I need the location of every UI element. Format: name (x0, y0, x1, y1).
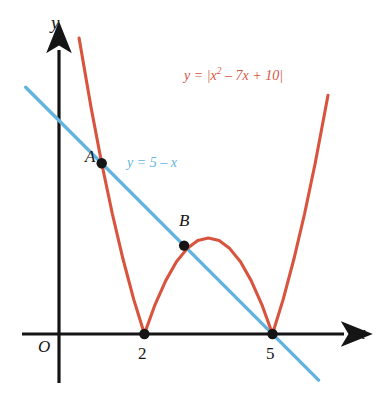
curve-equation-suffix: – 7x + 10| (222, 68, 284, 83)
point-b-marker (179, 240, 189, 250)
root-5-marker (267, 329, 277, 339)
point-a-marker (97, 158, 107, 168)
point-b-label: B (179, 212, 189, 229)
y-axis-label: y (51, 13, 59, 32)
x-tick-label-2: 2 (138, 345, 147, 362)
curve-equation-label: y = |x2 – 7x + 10| (184, 69, 283, 83)
origin-label: O (38, 338, 50, 355)
x-tick-label-5: 5 (266, 345, 275, 362)
line-equation-label: y = 5 – x (127, 156, 177, 170)
graph-canvas (0, 0, 384, 399)
graph-figure: y x O 2 5 A B y = |x2 – 7x + 10| y = 5 –… (0, 0, 384, 399)
curve-equation-prefix: y = |x (184, 68, 217, 83)
x-axis-label: x (357, 323, 365, 342)
root-2-marker (139, 329, 149, 339)
point-a-label: A (85, 148, 95, 165)
